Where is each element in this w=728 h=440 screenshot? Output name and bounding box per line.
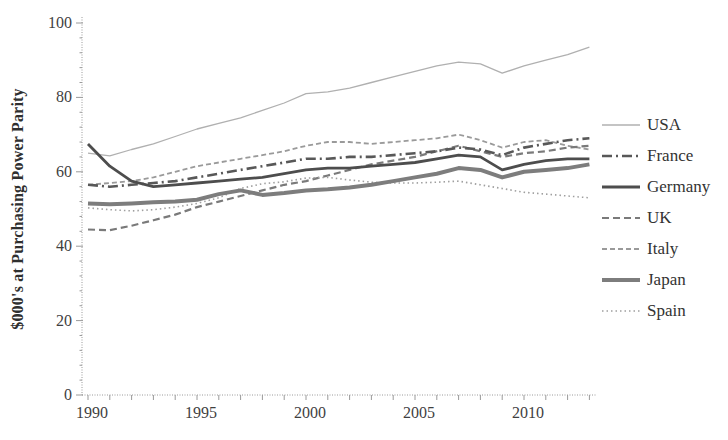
legend-item-france: France — [601, 140, 710, 171]
line-chart: $000's at Purchasing Power Parity 020406… — [0, 0, 728, 440]
series-line-usa — [88, 47, 589, 156]
x-tick-label: 2005 — [403, 404, 435, 421]
y-tick-label: 0 — [64, 386, 72, 403]
y-tick-label: 20 — [56, 312, 72, 329]
x-tick-label: 2010 — [512, 404, 544, 421]
legend-label-usa: USA — [647, 115, 681, 135]
legend-item-germany: Germany — [601, 171, 710, 202]
legend-item-usa: USA — [601, 109, 710, 140]
legend-item-japan: Japan — [601, 264, 710, 295]
legend-label-uk: UK — [647, 208, 672, 228]
legend-label-france: France — [647, 146, 693, 166]
x-tick-label: 2000 — [294, 404, 326, 421]
legend-item-spain: Spain — [601, 295, 710, 326]
legend-swatch-germany-line — [601, 181, 641, 193]
x-tick-label: 1990 — [76, 404, 108, 421]
legend-swatch-usa-line — [601, 119, 641, 131]
legend-swatch-italy-line — [601, 243, 641, 255]
legend-label-italy: Italy — [647, 239, 678, 259]
series-line-italy — [88, 135, 589, 185]
legend: USAFranceGermanyUKItalyJapanSpain — [601, 109, 710, 326]
legend-swatch-japan-line — [601, 274, 641, 286]
legend-swatch-france-line — [601, 150, 641, 162]
legend-label-germany: Germany — [647, 177, 710, 197]
series-line-france — [88, 138, 589, 186]
legend-swatch-uk-line — [601, 212, 641, 224]
x-tick-label: 1995 — [185, 404, 217, 421]
legend-item-italy: Italy — [601, 233, 710, 264]
y-tick-label: 40 — [56, 237, 72, 254]
legend-swatch-spain-line — [601, 305, 641, 317]
y-tick-label: 80 — [56, 88, 72, 105]
y-tick-label: 60 — [56, 163, 72, 180]
series-line-germany — [88, 144, 589, 187]
legend-label-japan: Japan — [647, 270, 686, 290]
series-line-japan — [88, 164, 589, 204]
legend-item-uk: UK — [601, 202, 710, 233]
y-tick-label: 100 — [48, 14, 72, 31]
legend-label-spain: Spain — [647, 301, 686, 321]
